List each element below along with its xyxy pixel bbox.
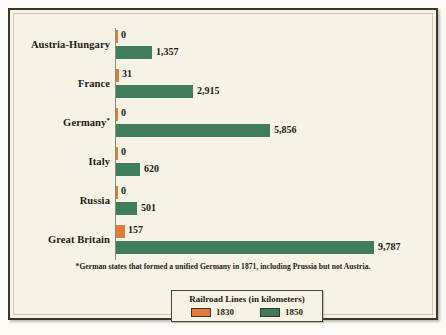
bar-value-1850: 9,787 (378, 241, 401, 252)
category-label-text: Russia (80, 195, 110, 206)
chart-legend: Railroad Lines (in kilometers) 1830 1850 (171, 290, 323, 322)
bar-value-1830: 0 (121, 29, 126, 40)
bar-1830 (116, 69, 119, 82)
bar-value-1850: 1,357 (156, 46, 179, 57)
bar-1850 (116, 46, 152, 59)
bar-1850 (116, 241, 374, 254)
figure-inner-border: Austria-Hungary 0 1,357 France 31 2,915 (13, 13, 433, 315)
bar-1850 (116, 85, 193, 98)
bar-group-row: France 31 2,915 (14, 67, 432, 105)
bar-value-1850: 2,915 (197, 85, 220, 96)
category-label: Germany* (14, 117, 110, 129)
legend-title: Railroad Lines (in kilometers) (178, 294, 316, 304)
chart-page: Austria-Hungary 0 1,357 France 31 2,915 (0, 0, 446, 335)
figure-frame: Austria-Hungary 0 1,357 France 31 2,915 (8, 8, 438, 320)
category-label: France (14, 78, 110, 90)
legend-swatch-1850 (260, 308, 280, 317)
bar-value-1830: 0 (121, 146, 126, 157)
bar-1830 (116, 225, 125, 238)
legend-items: 1830 1850 (178, 307, 316, 317)
bar-group-row: Russia 0 501 (14, 184, 432, 222)
category-label-text: Austria-Hungary (31, 39, 110, 50)
bar-1850 (116, 163, 140, 176)
bar-1850 (116, 202, 137, 215)
bar-value-1850: 501 (141, 202, 156, 213)
bar-1850 (116, 124, 270, 137)
bar-value-1830: 0 (121, 185, 126, 196)
bar-value-1830: 157 (128, 224, 143, 235)
category-label-text: Great Britain (48, 234, 110, 245)
bar-value-1830: 31 (122, 68, 132, 79)
bar-1830 (116, 147, 118, 160)
legend-label-1850: 1850 (285, 307, 303, 317)
category-label: Italy (14, 156, 110, 168)
legend-label-1830: 1830 (216, 307, 234, 317)
bar-group-row: Austria-Hungary 0 1,357 (14, 28, 432, 66)
category-label-text: Italy (89, 156, 111, 167)
bar-1830 (116, 30, 118, 43)
bar-value-1830: 0 (121, 107, 126, 118)
category-label: Great Britain (14, 234, 110, 246)
bar-1830 (116, 186, 118, 199)
chart-footnote: *German states that formed a unified Ger… (14, 262, 432, 271)
bar-group-row: Great Britain 157 9,787 (14, 223, 432, 261)
bar-group-row: Italy 0 620 (14, 145, 432, 183)
bar-group-row: Germany* 0 5,856 (14, 106, 432, 144)
bar-value-1850: 620 (144, 163, 159, 174)
legend-item-1850: 1850 (260, 307, 303, 317)
bar-1830 (116, 108, 118, 121)
category-label: Russia (14, 195, 110, 207)
legend-item-1830: 1830 (191, 307, 234, 317)
category-label-text: Germany (63, 117, 106, 128)
bar-value-1850: 5,856 (274, 124, 297, 135)
category-label-text: France (78, 78, 110, 89)
legend-swatch-1830 (191, 308, 211, 317)
category-label: Austria-Hungary (14, 39, 110, 51)
footnote-marker: * (106, 116, 110, 124)
plot-area: Austria-Hungary 0 1,357 France 31 2,915 (14, 14, 432, 314)
